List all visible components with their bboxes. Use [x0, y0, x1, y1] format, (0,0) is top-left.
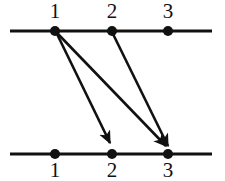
label-bottom-2: 2	[107, 158, 118, 181]
node-top-3[interactable]	[163, 26, 173, 36]
label-bottom-3: 3	[163, 158, 174, 181]
label-top-2: 2	[107, 0, 118, 23]
edge-top1-to-bottom2	[57, 34, 110, 143]
graph-canvas: 1 2 3 1 2 3	[0, 0, 225, 181]
label-bottom-1: 1	[50, 158, 61, 181]
edge-top1-to-bottom3	[58, 34, 166, 146]
bipartite-graph-figure: 1 2 3 1 2 3	[0, 0, 225, 181]
label-top-3: 3	[163, 0, 174, 23]
edge-top2-to-bottom3	[113, 34, 168, 146]
node-top-1[interactable]	[50, 26, 60, 36]
label-top-1: 1	[50, 0, 61, 23]
node-top-2[interactable]	[107, 26, 117, 36]
